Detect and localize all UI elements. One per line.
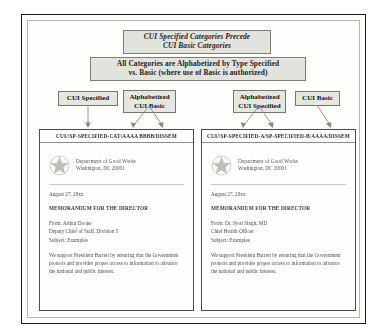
- agency-line-1: Department of Good Works: [238, 158, 298, 165]
- tag-alphabetized-cui-basic: Alphabetized CUI Basic: [123, 90, 176, 113]
- tag-line-2: CUI Specified: [237, 102, 282, 111]
- letterhead: Department of Good Works Washington, DC …: [49, 150, 184, 180]
- cui-banner-marking: CUI//SP-SPECIFIED-CAT/AAAA BBBB/DISSEM: [40, 130, 193, 143]
- letterhead-divider: [211, 184, 346, 185]
- document-body: Department of Good Works Washington, DC …: [40, 143, 193, 275]
- memo-field: From: Arthur Doone: [49, 219, 184, 227]
- memo-paragraph: We support President Barrett by ensuring…: [211, 251, 346, 275]
- memo-field: Deputy Chief of Staff, Division 5: [49, 227, 184, 235]
- slide-frame: CUI Specified Categories Precede CUI Bas…: [21, 14, 366, 324]
- callout-categories-alphabetized: All Categories are Alphabetized by Type …: [90, 57, 306, 81]
- tag-line-1: CUI Specified: [62, 94, 114, 103]
- connector-basic-right: [317, 105, 330, 125]
- agency-name: Department of Good Works Washington, DC …: [76, 158, 136, 173]
- memo-field: From: Dr. Jyoti Singh, MD: [211, 219, 346, 227]
- letterhead: Department of Good Works Washington, DC …: [211, 150, 346, 180]
- agency-line-1: Department of Good Works: [76, 158, 136, 165]
- memo-field: Subject: Examples: [49, 236, 184, 244]
- arrow-head: [326, 122, 332, 128]
- tag-line-1: Alphabetized: [237, 93, 282, 102]
- arrow-head: [131, 122, 137, 128]
- document-date: August 27, 20xx: [211, 191, 346, 197]
- tag-cui-specified-left: CUI Specified: [58, 91, 118, 106]
- document-preview-right[interactable]: CUI//SP-SPECIFIED-A/SP-SPECIFIED-B/AAAA/…: [201, 129, 356, 311]
- memo-field: Subject: Examples: [211, 236, 346, 244]
- tag-line-2: CUI Basic: [127, 102, 172, 111]
- star-seal-icon: [49, 155, 70, 176]
- document-preview-left[interactable]: CUI//SP-SPECIFIED-CAT/AAAA BBBB/DISSEM D…: [39, 129, 194, 311]
- memo-field: Chief Health Officer: [211, 227, 346, 235]
- letterhead-divider: [49, 184, 184, 185]
- arrow-head: [158, 122, 164, 128]
- memo-fields: From: Dr. Jyoti Singh, MD Chief Health O…: [211, 219, 346, 244]
- star-seal-icon: [211, 155, 232, 176]
- callout-line-2: CUI Basic Categories: [127, 42, 267, 51]
- callout-line-2: vs. Basic (where use of Basic is authori…: [94, 69, 302, 78]
- memorandum-for-line: MEMORANDUM FOR THE DIRECTOR: [49, 205, 184, 211]
- memo-paragraph: We support President Barrett by ensuring…: [49, 251, 184, 275]
- agency-name: Department of Good Works Washington, DC …: [238, 158, 298, 173]
- agency-line-2: Washington, DC 20001: [76, 165, 136, 172]
- tag-cui-basic-right: CUI Basic: [295, 91, 340, 106]
- tag-alphabetized-cui-specified: Alphabetized CUI Specified: [233, 90, 286, 113]
- agency-line-2: Washington, DC 20001: [238, 165, 298, 172]
- slide-inner-border: CUI Specified Categories Precede CUI Bas…: [27, 20, 360, 318]
- memo-fields: From: Arthur Doone Deputy Chief of Staff…: [49, 219, 184, 244]
- document-date: August 27, 20xx: [49, 191, 184, 197]
- callout-specified-precede-basic: CUI Specified Categories Precede CUI Bas…: [123, 30, 271, 54]
- arrow-head: [241, 122, 247, 128]
- arrow-head: [85, 123, 91, 129]
- arrow-head: [268, 122, 274, 128]
- cui-banner-marking: CUI//SP-SPECIFIED-A/SP-SPECIFIED-B/AAAA/…: [202, 130, 355, 143]
- tag-line-1: Alphabetized: [127, 93, 172, 102]
- document-body: Department of Good Works Washington, DC …: [202, 143, 355, 275]
- tag-line-1: CUI Basic: [299, 94, 336, 103]
- memorandum-for-line: MEMORANDUM FOR THE DIRECTOR: [211, 205, 346, 211]
